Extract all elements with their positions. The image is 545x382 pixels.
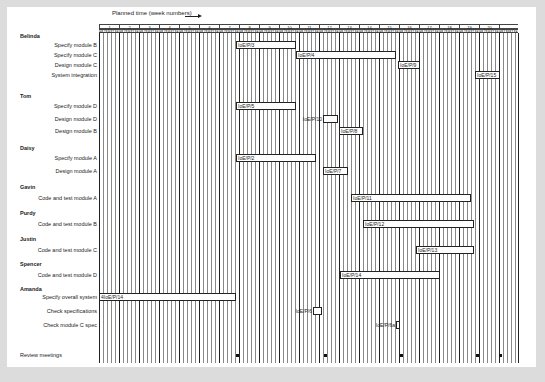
review-meeting-marker bbox=[476, 354, 479, 357]
grid-line bbox=[275, 33, 276, 363]
grid-line bbox=[243, 33, 244, 363]
grid-line bbox=[271, 33, 272, 363]
task-bar[interactable]: 4IoE/P/14 bbox=[99, 293, 236, 301]
task-label: Code and test module C bbox=[38, 247, 97, 253]
grid-line bbox=[167, 33, 168, 363]
grid-line bbox=[503, 33, 504, 363]
task-bar[interactable]: IoE/P/8 bbox=[339, 127, 363, 135]
grid-line bbox=[151, 33, 152, 363]
grid-line bbox=[103, 33, 104, 363]
task-bar-id: IoE/P/6 bbox=[296, 308, 312, 314]
grid-line bbox=[143, 33, 144, 363]
grid-line bbox=[279, 33, 280, 363]
x-axis-caption: Planned time (week numbers) bbox=[112, 10, 192, 16]
grid-line bbox=[171, 33, 172, 363]
task-bar[interactable] bbox=[323, 115, 338, 123]
day-header-row: MTWTF bbox=[399, 29, 419, 33]
grid-line bbox=[491, 33, 492, 363]
grid-line bbox=[211, 33, 212, 363]
day-header-row: MTWTF bbox=[459, 29, 479, 33]
person-name: Gavin bbox=[20, 184, 35, 190]
day-header-row: MTWTF bbox=[119, 29, 139, 33]
grid-line bbox=[215, 33, 216, 363]
person-name: Purdy bbox=[20, 210, 36, 216]
day-header-row: MTWTF bbox=[239, 29, 259, 33]
day-header-row: MTWTF bbox=[299, 29, 319, 33]
task-bar[interactable]: IoE/P/11 bbox=[351, 194, 471, 202]
grid-line bbox=[187, 33, 188, 363]
task-bar[interactable] bbox=[313, 307, 322, 315]
task-label: Design module D bbox=[55, 116, 97, 122]
grid-line bbox=[147, 33, 148, 363]
grid-line bbox=[235, 33, 236, 363]
grid-line bbox=[131, 33, 132, 363]
grid-line bbox=[135, 33, 136, 363]
day-header-row: MTWTF bbox=[219, 29, 239, 33]
task-label: Specify module B bbox=[54, 42, 97, 48]
grid-line bbox=[195, 33, 196, 363]
task-label: Specify module C bbox=[54, 52, 97, 58]
grid-line bbox=[483, 33, 484, 363]
task-bar[interactable]: IoE/P/14 bbox=[340, 271, 440, 279]
task-label: Specify module A bbox=[55, 155, 98, 161]
task-bar[interactable]: IoE/P/12 bbox=[363, 220, 474, 228]
task-label: Check specifications bbox=[47, 308, 97, 314]
task-bar[interactable]: IoE/P/9 bbox=[398, 61, 420, 69]
grid-line bbox=[163, 33, 164, 363]
task-label: System integration bbox=[51, 72, 97, 78]
task-bar[interactable]: IoE/P/7 bbox=[323, 167, 348, 175]
grid-line bbox=[511, 33, 512, 363]
day-header-row: MTWTF bbox=[159, 29, 179, 33]
grid-line bbox=[263, 33, 264, 363]
person-name: Daisy bbox=[20, 145, 35, 151]
grid-line bbox=[255, 33, 256, 363]
task-bar[interactable]: IoE/P/5 bbox=[236, 102, 296, 110]
grid-line bbox=[107, 33, 108, 363]
grid-line bbox=[347, 33, 348, 363]
grid-line bbox=[287, 33, 288, 363]
grid-line bbox=[339, 33, 340, 363]
review-meeting-marker bbox=[499, 354, 502, 357]
day-label: F bbox=[515, 30, 518, 32]
grid-line bbox=[123, 33, 124, 363]
grid-line bbox=[207, 33, 208, 363]
grid-line bbox=[518, 33, 519, 363]
review-meeting-marker bbox=[236, 354, 239, 357]
day-header-row: MTWTF bbox=[359, 29, 379, 33]
day-header-row: MTWTF bbox=[479, 29, 499, 33]
grid-line bbox=[283, 33, 284, 363]
review-meeting-marker bbox=[324, 354, 327, 357]
day-header-row: MTWTF bbox=[279, 29, 299, 33]
day-header-row: MTWTF bbox=[419, 29, 439, 33]
task-bar[interactable]: IoE/P/3 bbox=[236, 41, 296, 49]
grid-line bbox=[159, 33, 160, 363]
day-header-row: MTWTF bbox=[179, 29, 199, 33]
task-bar-id: IoE/P/6a bbox=[376, 322, 395, 328]
day-header-row: MTWTF bbox=[439, 29, 459, 33]
person-name: Tom bbox=[20, 93, 31, 99]
task-bar[interactable] bbox=[396, 321, 400, 329]
grid-line bbox=[487, 33, 488, 363]
grid-line bbox=[499, 33, 500, 363]
arrow-right-icon bbox=[185, 16, 199, 17]
person-name: Spencer bbox=[20, 261, 42, 267]
task-bar[interactable]: IoE/P/15 bbox=[475, 71, 500, 79]
grid-line bbox=[219, 33, 220, 363]
grid-line bbox=[199, 33, 200, 363]
grid-line bbox=[139, 33, 140, 363]
day-header-row: MTWTF bbox=[319, 29, 339, 33]
task-label: Design module B bbox=[55, 128, 97, 134]
day-header-row: MTWTF bbox=[99, 29, 119, 33]
grid-line bbox=[259, 33, 260, 363]
grid-line bbox=[471, 33, 472, 363]
grid-line bbox=[267, 33, 268, 363]
task-bar[interactable]: IoE/P/13 bbox=[416, 246, 474, 254]
task-bar[interactable]: IoE/P/4 bbox=[296, 51, 396, 59]
grid-line bbox=[183, 33, 184, 363]
task-bar[interactable]: IoE/P/2 bbox=[236, 154, 316, 162]
task-label: Specify module D bbox=[54, 103, 97, 109]
grid-line bbox=[335, 33, 336, 363]
grid-line bbox=[479, 33, 480, 363]
grid-line bbox=[495, 33, 496, 363]
task-label: Code and test module D bbox=[38, 272, 97, 278]
